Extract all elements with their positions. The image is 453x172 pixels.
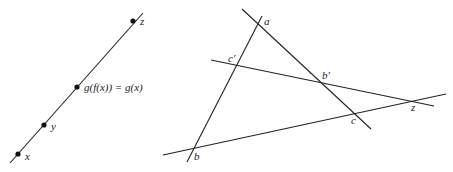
collinear-points-diagram: xyg(f(x)) = g(x)z	[10, 13, 145, 163]
point-g-label: g(f(x)) = g(x)	[84, 81, 143, 94]
point-x-marker	[15, 151, 20, 156]
point-z-marker	[130, 18, 135, 23]
label-z: z	[410, 101, 416, 113]
line-ab	[187, 16, 262, 162]
line-ac	[242, 9, 371, 129]
label-b: b	[194, 150, 200, 162]
point-y-marker	[41, 122, 46, 127]
point-y-label: y	[50, 120, 56, 132]
label-c-prime: c′	[228, 52, 236, 64]
desargues-configuration-diagram: ac′b′czb	[163, 9, 446, 162]
diagram-canvas: xyg(f(x)) = g(x)z ac′b′czb	[0, 0, 453, 172]
label-c: c	[351, 114, 356, 126]
line-b-z	[163, 94, 446, 155]
point-x-label: x	[24, 150, 30, 162]
label-b-prime: b′	[322, 69, 331, 81]
line-cprime-z	[211, 60, 434, 106]
label-a: a	[264, 15, 270, 27]
point-g-marker	[74, 84, 79, 89]
point-z-label: z	[139, 15, 145, 27]
